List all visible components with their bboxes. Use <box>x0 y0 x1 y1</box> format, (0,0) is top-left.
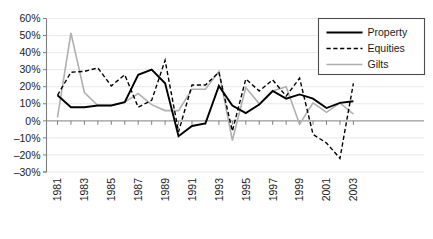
series-line-property <box>58 70 354 137</box>
x-tick-label: 2001 <box>320 178 332 202</box>
x-tick-label: 1987 <box>132 178 144 202</box>
chart-canvas: 60%50%40%30%20%10%0%–10%–20%–30% 1981198… <box>0 0 433 239</box>
x-tick-label: 1983 <box>78 178 90 202</box>
y-tick-label: 20% <box>19 80 40 92</box>
x-tick-label: 2003 <box>347 178 359 202</box>
y-tick-label: 50% <box>19 29 40 41</box>
x-tick-label: 1991 <box>186 178 198 202</box>
x-tick-label: 1989 <box>159 178 171 202</box>
x-tick-label: 1981 <box>51 178 63 202</box>
x-tick-label: 1985 <box>105 178 117 202</box>
x-tick-label: 1995 <box>240 178 252 202</box>
x-tick-label: 1993 <box>213 178 225 202</box>
y-tick-label: –30% <box>14 166 41 178</box>
x-tick-label: 1997 <box>267 178 279 202</box>
y-tick-labels: 60%50%40%30%20%10%0%–10%–20%–30% <box>14 12 41 178</box>
series-layer <box>58 33 354 158</box>
y-tick-label: 0% <box>25 115 40 127</box>
x-tick-labels: 1981198319851987198919911993199519971999… <box>51 178 359 202</box>
x-axis-ticks <box>43 121 353 172</box>
line-chart: 60%50%40%30%20%10%0%–10%–20%–30% 1981198… <box>0 0 433 239</box>
y-tick-label: 40% <box>19 46 40 58</box>
x-tick-label: 1999 <box>293 178 305 202</box>
legend-label-equities: Equities <box>368 42 405 54</box>
legend-label-property: Property <box>368 26 408 38</box>
y-axis <box>43 19 47 173</box>
chart-legend: PropertyEquitiesGilts <box>319 19 425 75</box>
y-tick-label: 60% <box>19 12 40 24</box>
y-tick-label: 10% <box>19 97 40 109</box>
y-tick-label: 30% <box>19 63 40 75</box>
legend-label-gilts: Gilts <box>368 58 389 70</box>
y-tick-label: –20% <box>14 149 41 161</box>
y-tick-label: –10% <box>14 132 41 144</box>
